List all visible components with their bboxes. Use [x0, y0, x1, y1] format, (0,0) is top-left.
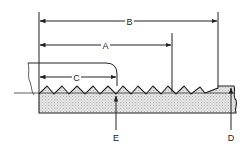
- dimension-b: B: [40, 17, 217, 27]
- label-d: D: [228, 133, 235, 143]
- label-b: B: [126, 17, 132, 27]
- label-e: E: [113, 133, 119, 143]
- dimension-c: C: [40, 73, 116, 83]
- gauge-break-line: [28, 63, 34, 95]
- dimension-a: A: [40, 41, 171, 51]
- threaded-body: [39, 86, 237, 113]
- label-c: C: [73, 73, 80, 83]
- label-a: A: [102, 41, 108, 51]
- thread-diagram: B A C E D: [0, 0, 248, 153]
